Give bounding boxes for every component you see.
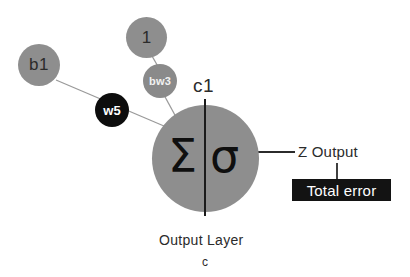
activation-glyph: σ [210, 133, 239, 179]
node-one[interactable]: 1 [126, 17, 167, 58]
total-error-box: Total error [292, 179, 391, 201]
node-w5[interactable]: w5 [95, 93, 129, 127]
output-label: Z Output [298, 144, 358, 159]
diagram-canvas: b1 1 bw3 w5 Σ σ c1 Z Output Total error … [0, 0, 410, 277]
neuron-divider [204, 99, 206, 216]
node-one-label: 1 [142, 28, 151, 48]
layer-caption-sub: c [202, 256, 208, 268]
neuron-label-c1: c1 [193, 76, 214, 95]
layer-caption: Output Layer [159, 233, 244, 247]
total-error-label: Total error [307, 182, 377, 199]
summation-glyph: Σ [168, 133, 197, 179]
node-bw3-label: bw3 [149, 75, 171, 87]
node-b1[interactable]: b1 [18, 44, 60, 86]
node-w5-label: w5 [103, 103, 121, 118]
node-bw3[interactable]: bw3 [143, 64, 177, 98]
node-b1-label: b1 [29, 55, 49, 75]
